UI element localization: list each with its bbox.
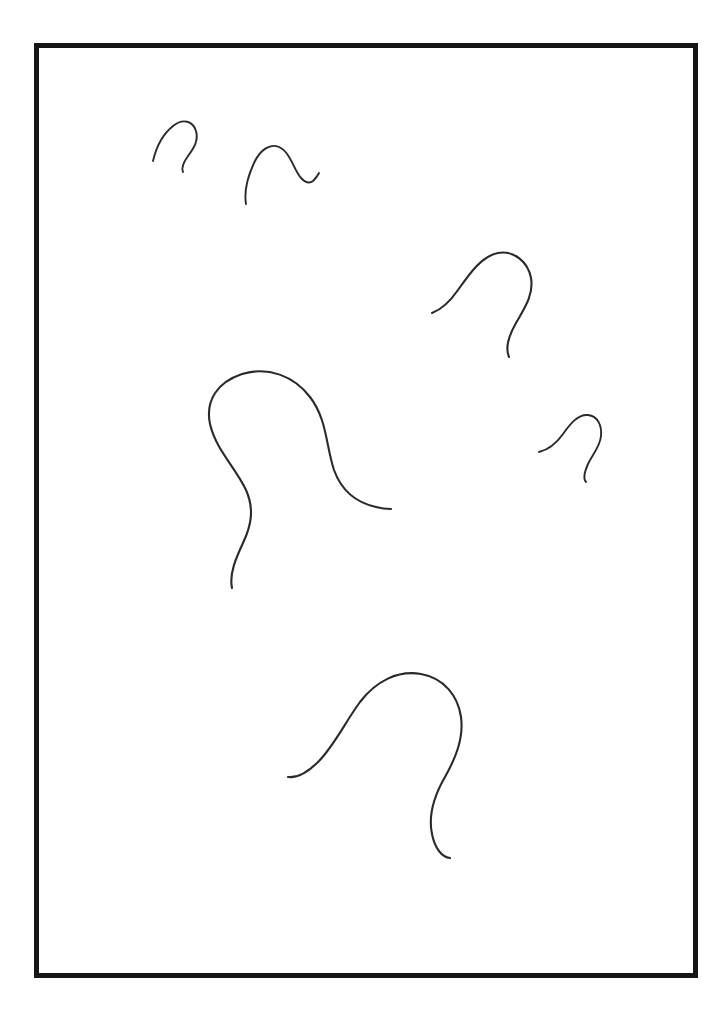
drawing-plate <box>0 0 726 1030</box>
border-frame <box>34 43 698 978</box>
